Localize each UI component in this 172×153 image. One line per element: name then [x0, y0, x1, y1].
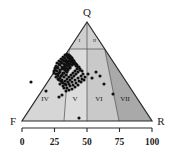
field-label-2: II — [93, 38, 97, 43]
data-point — [62, 86, 65, 89]
data-point — [90, 76, 93, 79]
axis-tick-label-25: 25 — [50, 137, 60, 147]
data-point — [86, 72, 89, 75]
data-point — [94, 70, 97, 73]
data-point — [77, 116, 80, 119]
data-point — [76, 65, 79, 68]
data-point — [44, 89, 47, 92]
axis-tick-label-50: 50 — [82, 137, 92, 147]
vertex-label-r: R — [157, 115, 165, 127]
data-point — [57, 95, 60, 98]
field-label-4: IV — [41, 95, 48, 103]
data-point — [98, 74, 101, 77]
axis-tick-label-75: 75 — [115, 137, 125, 147]
data-point — [70, 80, 73, 83]
data-point — [55, 61, 58, 64]
data-point — [68, 84, 71, 87]
data-point — [64, 89, 67, 92]
data-point — [52, 69, 55, 72]
data-point — [82, 78, 85, 81]
data-point — [73, 85, 76, 88]
field-label-5: V — [72, 95, 77, 103]
data-point — [76, 83, 79, 86]
field-label-7: VII — [120, 95, 130, 103]
vertex-label-f: F — [10, 115, 16, 127]
data-point — [73, 78, 76, 81]
axis-tick-label-0: 0 — [20, 137, 25, 147]
data-point — [76, 76, 79, 79]
data-point — [29, 80, 32, 83]
ternary-diagram-figure: I II IV V VI VII Q F R 0 25 50 75 100 — [0, 0, 172, 153]
data-point — [70, 87, 73, 90]
data-point — [83, 75, 86, 78]
data-point — [64, 83, 67, 86]
data-point — [56, 72, 59, 75]
apex-label-q: Q — [83, 6, 91, 18]
ternary-plot-svg: I II IV V VI VII Q F R 0 25 50 75 100 — [0, 0, 172, 153]
bottom-axis — [22, 128, 152, 132]
data-point — [53, 66, 56, 69]
axis-tick-label-100: 100 — [145, 137, 160, 147]
data-point — [72, 60, 75, 63]
data-point — [60, 93, 63, 96]
data-point — [67, 88, 70, 91]
data-point — [60, 67, 63, 70]
field-label-6: VI — [95, 95, 103, 103]
data-point — [102, 82, 105, 85]
data-point — [54, 75, 57, 78]
data-point — [57, 78, 60, 81]
data-point — [111, 92, 114, 95]
data-point — [58, 82, 61, 85]
data-point — [79, 80, 82, 83]
data-point — [81, 72, 84, 75]
